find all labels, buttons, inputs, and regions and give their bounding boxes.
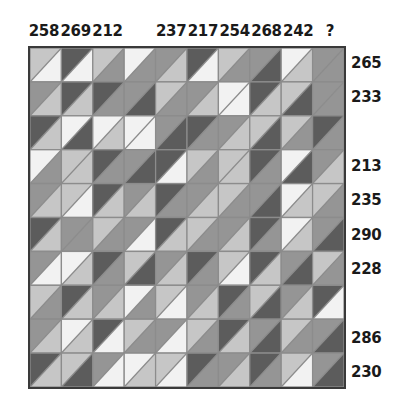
- matrix-cell: [30, 82, 61, 116]
- matrix-cell: [250, 251, 281, 285]
- matrix-cell: [187, 116, 218, 150]
- matrix-cell: [93, 285, 124, 319]
- matrix-cell: [281, 218, 312, 252]
- matrix-cell: [156, 82, 187, 116]
- matrix-cell: [313, 82, 344, 116]
- row-header-9: 286: [350, 320, 407, 354]
- matrix-cell: [124, 48, 155, 82]
- matrix-cell: [61, 184, 92, 218]
- row-header-5: 235: [350, 183, 407, 217]
- matrix-cell: [218, 285, 249, 319]
- matrix-cell: [281, 251, 312, 285]
- matrix-cell: [218, 184, 249, 218]
- matrix-cell: [250, 48, 281, 82]
- matrix-cell: [218, 150, 249, 184]
- matrix-cell: [30, 251, 61, 285]
- matrix-cell: [30, 150, 61, 184]
- column-header-3: 212: [92, 18, 124, 44]
- matrix-cell: [93, 116, 124, 150]
- matrix-cell: [30, 184, 61, 218]
- matrix-cell: [250, 319, 281, 353]
- matrix-cell: [313, 353, 344, 387]
- matrix-cell: [124, 82, 155, 116]
- matrix-cell: [281, 285, 312, 319]
- matrix-grid-svg: [30, 48, 344, 387]
- column-header-6: 217: [187, 18, 219, 44]
- row-header-3: [350, 115, 407, 149]
- column-header-row: 258269212237217254268242?: [28, 18, 346, 44]
- row-header-8: [350, 286, 407, 320]
- matrix-cell: [93, 353, 124, 387]
- matrix-cell: [281, 116, 312, 150]
- matrix-grid: [28, 46, 346, 389]
- matrix-cell: [156, 184, 187, 218]
- row-header-2: 233: [350, 80, 407, 114]
- matrix-cell: [281, 184, 312, 218]
- matrix-cell: [156, 116, 187, 150]
- column-header-9: 242: [282, 18, 314, 44]
- matrix-cell: [218, 353, 249, 387]
- matrix-cell: [187, 150, 218, 184]
- puzzle-figure: 258269212237217254268242? 26523321323529…: [0, 0, 407, 412]
- column-header-10: ?: [314, 18, 346, 44]
- matrix-cell: [156, 319, 187, 353]
- matrix-cell: [61, 319, 92, 353]
- matrix-cell: [61, 285, 92, 319]
- matrix-cell: [187, 319, 218, 353]
- matrix-cell: [93, 184, 124, 218]
- matrix-cell: [30, 218, 61, 252]
- matrix-cell: [187, 251, 218, 285]
- matrix-cell: [61, 251, 92, 285]
- matrix-cell: [281, 150, 312, 184]
- matrix-cell: [93, 218, 124, 252]
- matrix-cell: [30, 48, 61, 82]
- matrix-cell: [250, 150, 281, 184]
- matrix-cell: [156, 218, 187, 252]
- matrix-cell: [61, 116, 92, 150]
- matrix-cell: [250, 353, 281, 387]
- row-header-6: 290: [350, 217, 407, 251]
- column-header-2: 269: [60, 18, 92, 44]
- matrix-cell: [250, 218, 281, 252]
- matrix-cell: [187, 285, 218, 319]
- matrix-cell: [313, 116, 344, 150]
- matrix-cell: [313, 285, 344, 319]
- matrix-cell: [124, 285, 155, 319]
- matrix-cell: [218, 251, 249, 285]
- matrix-cell: [218, 319, 249, 353]
- matrix-cell: [313, 218, 344, 252]
- matrix-cell: [187, 82, 218, 116]
- matrix-cell: [187, 353, 218, 387]
- matrix-cell: [124, 251, 155, 285]
- matrix-cell: [218, 116, 249, 150]
- matrix-cell: [156, 251, 187, 285]
- matrix-cell: [218, 218, 249, 252]
- matrix-cell: [313, 184, 344, 218]
- matrix-cell: [30, 116, 61, 150]
- matrix-cell: [218, 48, 249, 82]
- row-header-10: 230: [350, 355, 407, 389]
- matrix-cell: [124, 218, 155, 252]
- matrix-cell: [281, 48, 312, 82]
- row-header-column: 265233213235290228286230: [350, 46, 407, 389]
- matrix-cell: [61, 82, 92, 116]
- matrix-cell: [218, 82, 249, 116]
- matrix-cell: [124, 116, 155, 150]
- matrix-cell: [250, 285, 281, 319]
- matrix-cell: [281, 353, 312, 387]
- matrix-cell: [61, 48, 92, 82]
- column-header-5: 237: [155, 18, 187, 44]
- matrix-cell: [30, 319, 61, 353]
- matrix-cell: [61, 150, 92, 184]
- matrix-cell: [313, 251, 344, 285]
- matrix-cell: [187, 184, 218, 218]
- matrix-cell: [30, 353, 61, 387]
- matrix-cell: [93, 150, 124, 184]
- matrix-cell: [30, 285, 61, 319]
- column-header-1: 258: [28, 18, 60, 44]
- matrix-cell: [313, 150, 344, 184]
- column-header-4: [123, 18, 155, 44]
- matrix-cell: [250, 184, 281, 218]
- matrix-cell: [124, 319, 155, 353]
- matrix-cell: [313, 319, 344, 353]
